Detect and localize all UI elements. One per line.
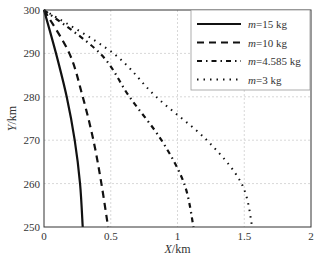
y-axis-label: Y/km [5,105,19,131]
y-tick-label: 280 [24,91,41,103]
x-axis-label: X/km [163,242,191,256]
legend: m=15 kgm=10 kgm=4.585 kgm=3 kg [191,10,310,90]
legend-label: m=3 kg [248,74,282,86]
y-tick-label: 250 [24,221,41,233]
x-ticks: 00.511.52 [41,230,314,242]
x-tick-label: 0.5 [104,230,118,242]
y-tick-label: 270 [24,134,41,146]
legend-label: m=4.585 kg [248,55,301,67]
y-tick-label: 300 [24,4,41,16]
y-tick-label: 290 [24,47,41,59]
y-ticks: 250260270280290300 [24,4,41,233]
series-line-dashdot [44,10,194,227]
x-tick-label: 1.5 [237,230,251,242]
trajectory-chart: 00.511.52 250260270280290300 X/km Y/km m… [0,0,320,256]
x-tick-label: 0 [41,230,47,242]
y-tick-label: 260 [24,178,41,190]
legend-label: m=10 kg [248,37,287,49]
legend-label: m=15 kg [248,18,287,30]
x-tick-label: 2 [308,230,314,242]
x-tick-label: 1 [175,230,181,242]
